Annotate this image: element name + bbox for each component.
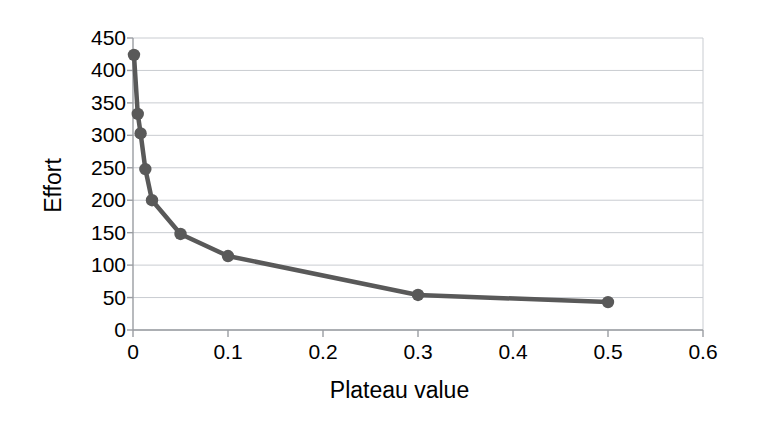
data-point-marker bbox=[128, 49, 140, 61]
y-axis-tick-label: 150 bbox=[66, 222, 126, 243]
x-axis-tick-label: 0.5 bbox=[573, 341, 643, 362]
effort-vs-plateau-chart: Effort 050100150200250300350400450 00.10… bbox=[0, 0, 759, 428]
data-point-marker bbox=[146, 194, 158, 206]
y-axis-tick-label: 250 bbox=[66, 157, 126, 178]
data-point-marker bbox=[602, 296, 614, 308]
x-axis-tick-labels: 00.10.20.30.40.50.6 bbox=[0, 341, 759, 371]
y-axis-tick-label: 100 bbox=[66, 254, 126, 275]
data-point-marker bbox=[132, 108, 144, 120]
y-axis-tick-label: 0 bbox=[66, 319, 126, 340]
x-axis-title: Plateau value bbox=[0, 377, 759, 404]
y-axis-tick-label: 200 bbox=[66, 189, 126, 210]
x-axis-tick-label: 0.1 bbox=[193, 341, 263, 362]
x-axis-tick-label: 0.2 bbox=[288, 341, 358, 362]
data-point-marker bbox=[174, 228, 186, 240]
y-axis-tick-label: 400 bbox=[66, 59, 126, 80]
data-point-marker bbox=[412, 289, 424, 301]
data-point-marker bbox=[139, 163, 151, 175]
x-axis-tick-label: 0.3 bbox=[383, 341, 453, 362]
data-point-marker bbox=[222, 250, 234, 262]
y-axis-tick-label: 450 bbox=[66, 27, 126, 48]
data-point-marker bbox=[134, 127, 146, 139]
y-axis-tick-label: 350 bbox=[66, 92, 126, 113]
x-axis-title-label: Plateau value bbox=[290, 377, 469, 404]
x-axis-tick-label: 0 bbox=[98, 341, 168, 362]
x-axis-tick-label: 0.6 bbox=[668, 341, 738, 362]
y-axis-tick-label: 50 bbox=[66, 287, 126, 308]
x-axis-tick-label: 0.4 bbox=[478, 341, 548, 362]
y-axis-tick-label: 300 bbox=[66, 124, 126, 145]
